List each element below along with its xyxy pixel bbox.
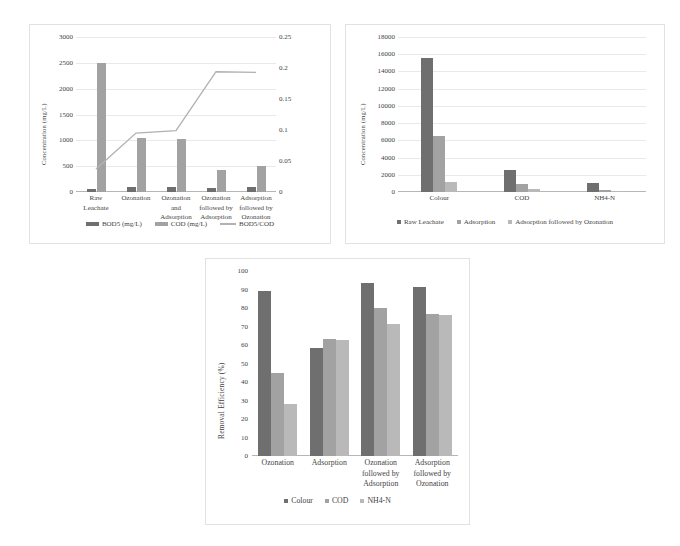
y-tick-label: 0 bbox=[245, 452, 249, 460]
removal-efficiency-plot-wrap: Removal Efficiency (%) 01020304050607080… bbox=[206, 259, 469, 524]
legend-swatch-icon bbox=[360, 499, 364, 503]
bar-group bbox=[407, 271, 459, 456]
category-label: Ozonation bbox=[252, 458, 304, 490]
y-tick-label: 30 bbox=[241, 397, 248, 405]
legend-swatch-icon bbox=[397, 220, 401, 224]
concentration-legend: Raw LeachateAdsorptionAdsorption followe… bbox=[346, 218, 664, 226]
bar-adsorption bbox=[516, 184, 528, 192]
category-label: NH4-N bbox=[563, 194, 646, 204]
legend-label: Colour bbox=[291, 496, 313, 505]
y-tick-label: 100 bbox=[238, 267, 249, 275]
bar-raw-leachate bbox=[587, 183, 599, 192]
legend-item: NH4-N bbox=[360, 496, 390, 505]
legend-swatch-icon bbox=[155, 222, 168, 226]
bar-nh4-n bbox=[439, 315, 452, 456]
secondary-y-tick-label: 0.1 bbox=[279, 126, 288, 134]
legend-label: COD (mg/L) bbox=[171, 220, 207, 228]
y-tick-label: 8000 bbox=[381, 119, 395, 127]
bar-cod bbox=[271, 373, 284, 456]
bar-group bbox=[252, 271, 304, 456]
legend-label: Adsorption bbox=[464, 218, 496, 226]
y-tick-label: 0 bbox=[392, 188, 396, 196]
legend-item: BOD5 (mg/L) bbox=[86, 220, 142, 228]
bod-cod-plot-wrap: Concentration (mg/L) 0500100015002000250… bbox=[30, 25, 330, 243]
legend-swatch-icon bbox=[325, 499, 329, 503]
y-tick-label: 80 bbox=[241, 304, 248, 312]
bar-group bbox=[481, 37, 564, 192]
y-tick-label: 2000 bbox=[59, 85, 73, 93]
category-label: Colour bbox=[398, 194, 481, 204]
bar-group bbox=[355, 271, 407, 456]
y-tick-label: 500 bbox=[63, 162, 74, 170]
legend-item: Adsorption followed by Ozonation bbox=[508, 218, 613, 226]
y-tick-label: 0 bbox=[70, 188, 74, 196]
concentration-chart-panel: Concentration (mg/L) 0200040006000800010… bbox=[345, 24, 665, 244]
removal-efficiency-plot-area bbox=[252, 271, 458, 456]
concentration-plot-area bbox=[398, 37, 646, 192]
bar-colour bbox=[413, 287, 426, 456]
bod-cod-plot-area bbox=[76, 37, 276, 192]
category-label: COD bbox=[481, 194, 564, 204]
legend-item: Adsorption bbox=[457, 218, 496, 226]
bod5-cod-ratio-line bbox=[76, 37, 276, 192]
bar-nh4-n bbox=[387, 324, 400, 456]
bar-colour bbox=[258, 291, 271, 456]
legend-label: BOD5 (mg/L) bbox=[102, 220, 142, 228]
y-tick-label: 14000 bbox=[378, 67, 396, 75]
legend-item: COD bbox=[325, 496, 348, 505]
y-tick-label: 3000 bbox=[59, 33, 73, 41]
y-tick-label: 20 bbox=[241, 415, 248, 423]
bar-adsorption-followed-by-ozonation bbox=[445, 182, 457, 192]
bar-group bbox=[398, 37, 481, 192]
y-tick-label: 1500 bbox=[59, 111, 73, 119]
concentration-category-labels: ColourCODNH4-N bbox=[398, 194, 646, 204]
legend-label: Adsorption followed by Ozonation bbox=[515, 218, 613, 226]
removal-efficiency-y-axis-ticks: 0102030405060708090100 bbox=[214, 271, 248, 456]
bar-colour bbox=[361, 283, 374, 456]
category-label: Raw Leachate bbox=[76, 194, 116, 223]
category-label: Ozonation followed by Adsorption bbox=[355, 458, 407, 490]
bar-cod bbox=[323, 339, 336, 456]
secondary-y-tick-label: 0.15 bbox=[279, 95, 291, 103]
bar-adsorption bbox=[599, 190, 611, 192]
category-label: Ozonation followed by Adsorption bbox=[196, 194, 236, 223]
bod-cod-legend: BOD5 (mg/L)COD (mg/L)BOD5/COD bbox=[30, 220, 330, 228]
secondary-y-tick-label: 0.05 bbox=[279, 157, 291, 165]
y-tick-label: 10 bbox=[241, 434, 248, 442]
y-tick-label: 90 bbox=[241, 286, 248, 294]
y-tick-label: 2000 bbox=[381, 171, 395, 179]
y-tick-label: 50 bbox=[241, 360, 248, 368]
concentration-y-axis-ticks: 0200040006000800010000120001400016000180… bbox=[361, 37, 395, 192]
bar-group bbox=[304, 271, 356, 456]
category-label: Adsorption followed by Ozonation bbox=[407, 458, 459, 490]
y-tick-label: 10000 bbox=[378, 102, 396, 110]
y-tick-label: 1000 bbox=[59, 136, 73, 144]
legend-swatch-icon bbox=[284, 499, 288, 503]
legend-item: Colour bbox=[284, 496, 313, 505]
removal-efficiency-legend: ColourCODNH4-N bbox=[206, 496, 469, 505]
y-tick-label: 2500 bbox=[59, 59, 73, 67]
y-tick-label: 70 bbox=[241, 323, 248, 331]
bar-nh4-n bbox=[284, 404, 297, 456]
legend-swatch-icon bbox=[508, 220, 512, 224]
bod-cod-category-labels: Raw LeachateOzonationOzonation and Adsor… bbox=[76, 194, 276, 223]
bar-nh4-n bbox=[336, 340, 349, 456]
y-tick-label: 16000 bbox=[378, 50, 396, 58]
y-tick-label: 4000 bbox=[381, 154, 395, 162]
category-label: Ozonation bbox=[116, 194, 156, 223]
bar-cod bbox=[374, 308, 387, 456]
bar-raw-leachate bbox=[421, 58, 433, 192]
bar-group bbox=[563, 37, 646, 192]
legend-swatch-icon bbox=[220, 223, 236, 225]
y-tick-label: 18000 bbox=[378, 33, 396, 41]
y-tick-label: 60 bbox=[241, 341, 248, 349]
removal-efficiency-chart-panel: Removal Efficiency (%) 01020304050607080… bbox=[205, 258, 470, 525]
legend-label: COD bbox=[332, 496, 348, 505]
category-label: Adsorption followed by Ozonation bbox=[236, 194, 276, 223]
legend-label: Raw Leachate bbox=[404, 218, 444, 226]
legend-item: Raw Leachate bbox=[397, 218, 444, 226]
legend-swatch-icon bbox=[457, 220, 461, 224]
y-tick-label: 12000 bbox=[378, 85, 396, 93]
bar-adsorption-followed-by-ozonation bbox=[528, 189, 540, 192]
legend-item: BOD5/COD bbox=[220, 220, 274, 228]
